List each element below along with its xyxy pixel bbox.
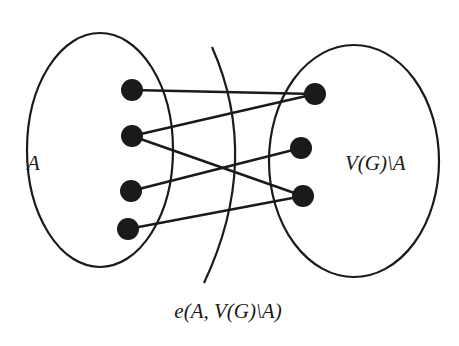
cut-diagram: A V(G)\A e(A, V(G)\A) <box>0 0 459 346</box>
vertex-b2 <box>290 137 312 159</box>
edge-a2-b1 <box>132 94 315 136</box>
edge-a2-b3 <box>132 136 303 196</box>
vertex-a2 <box>121 125 143 147</box>
cut-label: e(A, V(G)\A) <box>174 299 281 323</box>
vertex-b3 <box>292 185 314 207</box>
labels: A V(G)\A e(A, V(G)\A) <box>25 151 406 323</box>
vertex-b1 <box>304 83 326 105</box>
set-a-label: A <box>25 151 40 175</box>
vertex-a4 <box>117 218 139 240</box>
set-A-ellipse <box>27 33 173 267</box>
crossing-edges <box>128 90 315 229</box>
set-complement-label: V(G)\A <box>345 151 406 175</box>
vertex-a1 <box>121 79 143 101</box>
vertex-a3 <box>120 180 142 202</box>
vertices <box>117 79 326 240</box>
edge-a3-b2 <box>131 148 301 191</box>
